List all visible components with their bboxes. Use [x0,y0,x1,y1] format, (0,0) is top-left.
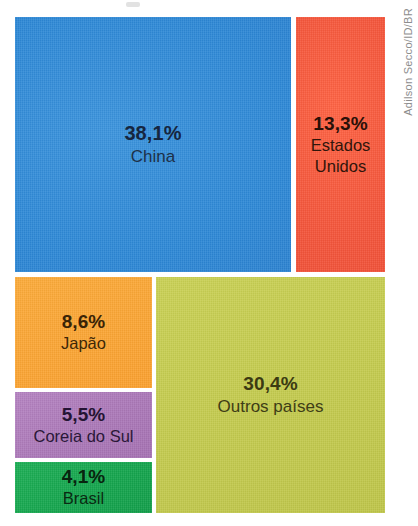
image-credit-text: Adilson Secco/ID/BR [402,8,414,116]
treemap-tile-china[interactable]: 38,1% China [15,17,291,272]
tile-china-percent: 38,1% [124,122,181,146]
treemap-tile-brasil[interactable]: 4,1% Brasil [15,462,152,513]
scan-artifact [126,2,140,7]
tile-brasil-percent: 4,1% [62,466,106,488]
tile-estados-unidos-percent: 13,3% [313,113,367,135]
tile-coreia-do-sul-label: Coreia do Sul [34,427,134,446]
tile-estados-unidos-label-line-1: Estados [311,136,371,155]
treemap-chart: 38,1% China 13,3% Estados Unidos 8,6% Ja… [0,0,418,526]
tile-outros-paises-label: Outros países [218,397,324,417]
treemap-tile-outros-paises[interactable]: 30,4% Outros países [156,277,385,513]
image-credit: Adilson Secco/ID/BR [400,8,416,198]
tile-brasil-label: Brasil [63,489,104,508]
tile-coreia-do-sul-percent: 5,5% [62,404,106,426]
treemap-tile-japao[interactable]: 8,6% Japão [15,277,152,388]
tile-estados-unidos-label-line-2: Unidos [315,157,366,176]
treemap-tile-coreia-do-sul[interactable]: 5,5% Coreia do Sul [15,392,152,458]
tile-outros-paises-percent: 30,4% [243,373,297,395]
tile-japao-percent: 8,6% [62,311,106,333]
tile-japao-label: Japão [61,334,106,353]
treemap-tile-estados-unidos[interactable]: 13,3% Estados Unidos [296,17,385,272]
tile-china-label: China [131,147,175,167]
